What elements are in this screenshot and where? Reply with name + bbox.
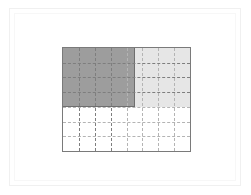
gridline-horizontal-1 [63,63,190,64]
gridline-horizontal-6 [63,136,190,137]
grid-plot-area [62,47,191,152]
gridline-horizontal-5 [63,122,190,123]
figure-root [0,0,251,195]
grid-inner [63,48,190,151]
gridline-horizontal-3 [63,92,190,93]
gridline-horizontal-4 [63,107,190,108]
gridline-horizontal-2 [63,77,190,78]
